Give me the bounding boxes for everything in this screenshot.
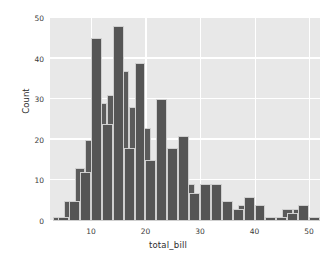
histogram-bar — [309, 217, 320, 221]
histogram-bar — [58, 217, 69, 221]
histogram-bar — [233, 209, 244, 221]
y-tick-label: 0 — [18, 217, 44, 226]
histogram-bar — [102, 124, 113, 221]
histogram-bar — [113, 26, 124, 221]
x-tick-label: 10 — [76, 227, 106, 236]
histogram-figure: 01020304050 1020304050 total_bill Count — [0, 0, 336, 265]
histogram-bar — [69, 201, 80, 221]
y-tick-label: 50 — [18, 14, 44, 23]
plot-area — [50, 18, 320, 221]
histogram-bar — [287, 213, 298, 221]
y-tick-label: 20 — [18, 136, 44, 145]
x-tick-label: 20 — [130, 227, 160, 236]
histogram-bar — [156, 99, 167, 221]
histogram-bar — [265, 217, 276, 221]
x-tick-label: 50 — [294, 227, 324, 236]
histogram-bar — [80, 172, 91, 221]
y-tick-label: 40 — [18, 55, 44, 64]
histogram-bar — [91, 38, 102, 221]
histogram-bar — [189, 193, 200, 221]
histogram-bar — [178, 136, 189, 221]
y-axis-label: Count — [21, 71, 31, 131]
y-tick-label: 10 — [18, 176, 44, 185]
x-tick-label: 30 — [185, 227, 215, 236]
x-axis-label: total_bill — [0, 240, 336, 250]
histogram-bar — [145, 160, 156, 221]
histogram-bar — [244, 197, 255, 221]
x-tick-label: 40 — [240, 227, 270, 236]
histogram-bar — [222, 201, 233, 221]
histogram-bar — [200, 184, 211, 221]
histogram-bar — [167, 148, 178, 221]
histogram-bar — [124, 148, 135, 221]
histogram-bar — [255, 205, 266, 221]
bars-series-b — [50, 18, 320, 221]
histogram-bar — [135, 63, 146, 221]
histogram-bar — [276, 217, 287, 221]
histogram-bar — [298, 205, 309, 221]
histogram-bar — [211, 184, 222, 221]
